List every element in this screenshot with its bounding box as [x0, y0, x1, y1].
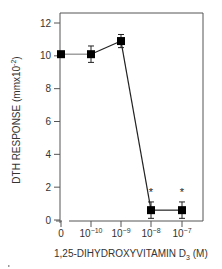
y-tick-label: 6: [45, 116, 51, 127]
y-axis: 024681012: [40, 18, 60, 226]
x-tick-label: 0: [58, 228, 64, 239]
y-tick-label: 2: [45, 182, 51, 193]
y-tick-label: 12: [40, 18, 52, 29]
square-marker: [87, 50, 95, 58]
y-tick-label: 10: [40, 50, 52, 61]
asterisk-marker: *: [149, 186, 154, 198]
x-tick-label: 10−9: [111, 227, 130, 239]
y-tick-label: 8: [45, 83, 51, 94]
significance-markers: **: [149, 186, 185, 198]
data-series: [57, 34, 186, 218]
x-axis-title: 1,25-DIHYDROXYVITAMIN D3 (M): [54, 248, 208, 261]
x-tick-label: 10−10: [80, 227, 103, 239]
square-marker: [117, 37, 125, 45]
x-tick-label: 10−8: [141, 227, 160, 239]
square-marker: [147, 206, 155, 214]
series-segment: [91, 41, 121, 54]
y-axis-title: DTH RESPONSE (mmx10-2): [10, 56, 22, 183]
y-tick-label: 4: [45, 149, 51, 160]
stray-mark: [8, 265, 10, 267]
y-tick-label: 0: [45, 215, 51, 226]
x-tick-label: 10−7: [172, 227, 191, 239]
asterisk-marker: *: [180, 186, 185, 198]
square-marker: [178, 206, 186, 214]
series-segment: [121, 41, 151, 210]
dth-response-chart: 024681012 010−1010−910−810−7 ** DTH RESP…: [0, 0, 222, 269]
square-marker: [57, 50, 65, 58]
x-axis: 010−1010−910−810−7: [58, 221, 191, 239]
